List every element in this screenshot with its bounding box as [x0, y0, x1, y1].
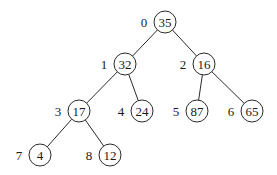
node-index-label: 3: [55, 104, 62, 119]
node-value: 87: [191, 104, 205, 119]
node-index-label: 5: [173, 104, 180, 119]
tree-diagram: 35032116217324487565647128: [0, 0, 277, 175]
node-index-label: 0: [141, 15, 148, 30]
tree-edge: [133, 30, 158, 56]
nodes-group: 35032116217324487565647128: [16, 11, 263, 166]
node-value: 65: [246, 104, 259, 119]
tree-edge: [172, 30, 196, 56]
node-value: 24: [136, 104, 150, 119]
tree-edge: [129, 74, 139, 100]
node-index-label: 8: [86, 148, 93, 163]
tree-node: 656: [228, 100, 263, 122]
tree-svg: 35032116217324487565647128: [0, 0, 277, 175]
node-value: 12: [104, 148, 117, 163]
tree-node: 47: [16, 144, 51, 166]
tree-node: 162: [180, 53, 215, 75]
node-value: 17: [73, 104, 87, 119]
node-index-label: 1: [101, 57, 108, 72]
tree-node: 128: [86, 144, 121, 166]
node-value: 4: [37, 148, 44, 163]
node-value: 35: [159, 15, 172, 30]
tree-node: 875: [173, 100, 208, 122]
tree-edge: [85, 120, 103, 146]
node-value: 32: [119, 57, 132, 72]
node-index-label: 2: [180, 57, 187, 72]
node-index-label: 6: [228, 104, 235, 119]
tree-node: 244: [118, 100, 153, 122]
tree-edge: [87, 72, 118, 103]
tree-node: 173: [55, 100, 90, 122]
tree-edge: [199, 75, 203, 100]
tree-edge: [47, 119, 71, 147]
tree-node: 321: [101, 53, 136, 75]
tree-edge: [212, 72, 244, 104]
node-index-label: 7: [16, 148, 23, 163]
tree-node: 350: [141, 11, 176, 33]
edges-group: [47, 30, 244, 147]
node-value: 16: [198, 57, 212, 72]
node-index-label: 4: [118, 104, 125, 119]
